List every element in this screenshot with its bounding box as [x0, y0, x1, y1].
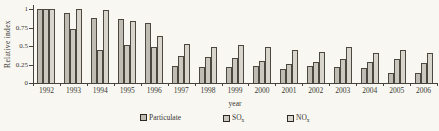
bar-group-1996: [141, 9, 168, 83]
bar-nox-1996: [157, 36, 163, 83]
x-tick-mark: [437, 83, 438, 86]
year-label-2006: 2006: [410, 86, 437, 95]
x-axis-label: year: [213, 99, 257, 108]
bar-nox-1995: [130, 21, 136, 83]
bar-nox-1993: [76, 9, 82, 83]
year-label-2003: 2003: [329, 86, 356, 95]
x-axis-line: [33, 83, 437, 84]
y-tick-label: 0: [8, 80, 28, 87]
emissions-relative-index-chart: Relative index 00.250.50.751 19921993199…: [0, 0, 439, 131]
year-label-2000: 2000: [249, 86, 276, 95]
legend-marker-sox: [223, 115, 230, 122]
bar-nox-2006: [427, 53, 433, 83]
bar-nox-1998: [211, 47, 217, 83]
bar-nox-2002: [319, 52, 325, 83]
year-label-2005: 2005: [383, 86, 410, 95]
bar-nox-1997: [184, 44, 190, 83]
plot-area: [33, 9, 437, 83]
y-tick-label: 0.75: [8, 24, 28, 31]
year-label-1992: 1992: [33, 86, 60, 95]
legend-label-subscript: x: [307, 117, 310, 123]
legend-label: Particulate: [149, 113, 181, 122]
year-label-1997: 1997: [168, 86, 195, 95]
year-label-2002: 2002: [302, 86, 329, 95]
bar-nox-2000: [265, 47, 271, 83]
legend-item-nox: NOx: [287, 113, 310, 123]
legend-item-particulate: Particulate: [140, 113, 181, 122]
bar-group-2001: [275, 9, 302, 83]
bar-group-2000: [249, 9, 276, 83]
bar-group-1997: [168, 9, 195, 83]
bar-group-1999: [222, 9, 249, 83]
year-label-1996: 1996: [141, 86, 168, 95]
category-labels: 1992199319941995199619971998199920002001…: [33, 86, 437, 95]
y-tick-label: 0.5: [8, 43, 28, 50]
bar-group-1994: [87, 9, 114, 83]
bar-group-2006: [410, 9, 437, 83]
y-tick-label: 1: [8, 6, 28, 13]
bar-nox-1992: [49, 9, 55, 83]
legend-item-sox: SOx: [223, 113, 244, 123]
year-label-1994: 1994: [87, 86, 114, 95]
bar-nox-2003: [346, 47, 352, 83]
legend-label: SOx: [232, 113, 244, 123]
legend-marker-particulate: [140, 114, 147, 121]
year-label-2004: 2004: [356, 86, 383, 95]
bar-nox-2005: [400, 50, 406, 83]
y-tick-label: 0.25: [8, 61, 28, 68]
bar-group-1998: [195, 9, 222, 83]
bar-nox-2001: [292, 50, 298, 83]
bar-group-2003: [329, 9, 356, 83]
bar-nox-1999: [238, 45, 244, 83]
year-label-2001: 2001: [275, 86, 302, 95]
legend-label-subscript: x: [242, 117, 245, 123]
year-label-1999: 1999: [222, 86, 249, 95]
year-label-1998: 1998: [195, 86, 222, 95]
bar-group-2004: [356, 9, 383, 83]
legend-marker-nox: [287, 115, 294, 122]
bar-group-2002: [302, 9, 329, 83]
legend-label: NOx: [296, 113, 310, 123]
bar-group-1995: [114, 9, 141, 83]
year-label-1995: 1995: [114, 86, 141, 95]
year-label-1993: 1993: [60, 86, 87, 95]
bar-group-1992: [33, 9, 60, 83]
bar-group-2005: [383, 9, 410, 83]
bar-group-1993: [60, 9, 87, 83]
bar-nox-1994: [103, 10, 109, 83]
bar-nox-2004: [373, 53, 379, 83]
